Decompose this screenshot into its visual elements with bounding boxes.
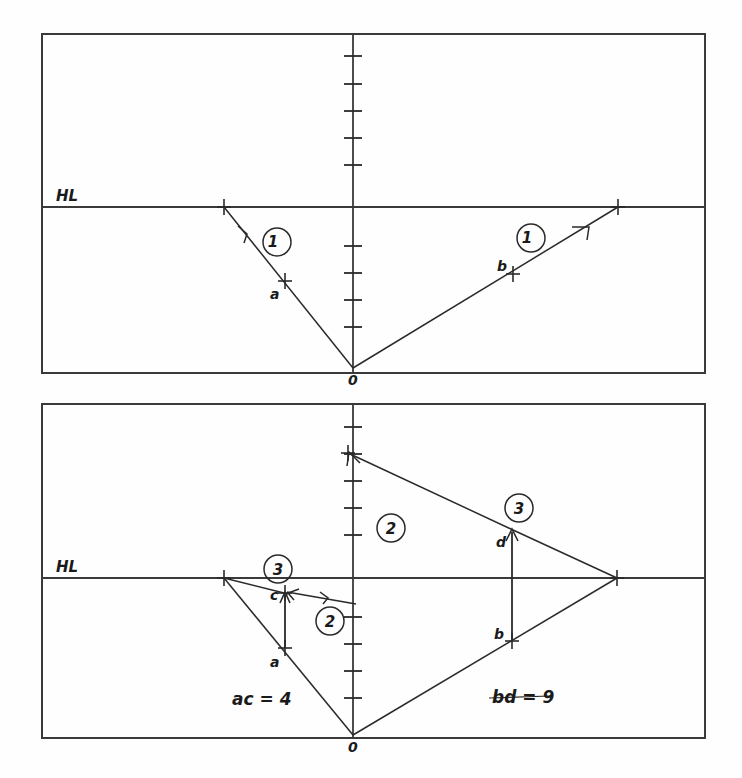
point-marker-top-right-hl [611,199,625,215]
point-label-d: d [496,534,507,550]
panel-frame-top [42,34,705,373]
horizon-label-bottom: HL [56,558,78,576]
horizon-label-top: HL [56,187,78,205]
circle-label-2-left: 2 [325,613,335,631]
ray-right-1 [353,207,618,368]
ray-left-3 [224,578,288,594]
panel-frame-bottom [42,404,705,738]
ray-right-2 [348,453,513,530]
point-label-c: c [270,587,279,603]
circle-label-2-right: 2 [386,520,396,538]
bottom-panel [42,404,705,738]
point-label-a-top: a [270,286,279,302]
top-panel [42,34,705,373]
circle-label-1-left: 1 [268,233,278,251]
circle-label-3-left: 3 [273,561,283,579]
diagram-svg: HL 0 1 1 a b HL 0 3 2 2 3 a c d b ac = 4… [0,0,742,778]
circle-label-3-right: 3 [514,500,524,518]
point-marker-c [278,585,292,601]
diagram-canvas: HL 0 1 1 a b HL 0 3 2 2 3 a c d b ac = 4… [0,0,742,778]
point-label-b-top: b [497,258,507,274]
measure-ac: ac = 4 [232,689,291,709]
measure-bd: bd = 9 [492,687,554,707]
origin-label-top: 0 [348,372,358,388]
ray-right-3 [513,530,617,578]
point-marker-a-top [278,273,292,289]
ray-right-lower-long [353,578,617,735]
origin-label-bottom: 0 [348,739,358,755]
point-label-a-bottom: a [270,654,279,670]
point-label-b-bottom: b [494,626,504,642]
circle-label-1-right: 1 [522,229,532,247]
